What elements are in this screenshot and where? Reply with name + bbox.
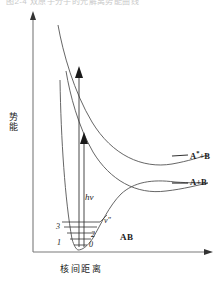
label-asymptote-a-star-plus-b: A*+B [190, 149, 210, 161]
x-axis-label: 核间距离 [60, 262, 102, 275]
diagram-canvas [0, 0, 224, 284]
label-vib-level-0: 0 [89, 240, 93, 249]
asymptote-line-a-star-plus-b [172, 155, 188, 156]
curve-ab-ground-state [78, 181, 208, 250]
transition-arrow-upper [75, 66, 83, 247]
curve-inner-repulsive-wall [60, 80, 78, 250]
transition-arrow-lower [80, 132, 88, 247]
label-vib-quantum-number: v″ [104, 216, 111, 225]
x-axis [33, 249, 213, 255]
label-photon-energy: hν [85, 192, 94, 202]
y-axis-label: 势能 [7, 112, 20, 132]
label-asymptote-a-star-plus-b-rest: +B [199, 151, 210, 161]
label-vib-level-3: 3 [56, 222, 60, 231]
potential-energy-diagram: 图2-4 双原子分子的光解离势能曲线 [0, 0, 224, 284]
label-vib-level-1: 1 [57, 238, 61, 247]
curve-excited-a-plus-b [66, 71, 208, 192]
label-asymptote-a-plus-b: A+B [190, 177, 207, 187]
label-vib-level-2: 2 [91, 230, 95, 239]
y-axis [30, 11, 36, 252]
label-ground-state-ab: AB [120, 232, 134, 242]
